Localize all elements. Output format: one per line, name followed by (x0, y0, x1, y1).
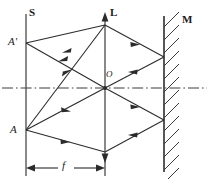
label-focal-length-f: f (62, 160, 65, 171)
label-optical-center-O: O (106, 70, 113, 79)
dimension-arrow-left-icon (26, 165, 35, 172)
arrow-right-mid-icon (61, 107, 71, 112)
ray-lens-top-to-mirror-lower (105, 25, 164, 57)
optical-center-node (103, 86, 107, 90)
label-lens-L: L (110, 7, 117, 18)
label-image-point-A-prime: A' (8, 36, 17, 47)
focal-length-dimension (26, 165, 105, 172)
label-object-point-A: A (10, 124, 17, 135)
arrow-left-mid-icon (58, 56, 68, 62)
ray-A-to-optical-center (26, 88, 105, 130)
ray-center-to-Aprime (26, 43, 105, 88)
diagram-canvas (0, 0, 209, 189)
mirror-line-M (164, 12, 179, 179)
optical-ray-diagram: S L M A' A O f (0, 0, 209, 189)
label-screen-S: S (29, 7, 35, 18)
lens-bottom-arrow-icon (102, 154, 109, 164)
ray-direction-arrows (58, 42, 140, 144)
arrow-right-lower-to-mirror-icon (130, 104, 140, 109)
mirror-hatching (164, 12, 179, 179)
arrow-left-upper-icon (62, 48, 72, 53)
label-mirror-M: M (182, 14, 192, 25)
arrow-right-lower-icon (60, 139, 70, 144)
dimension-arrow-right-icon (96, 165, 105, 172)
ray-center-to-mirror-lower (105, 88, 164, 120)
lens-top-arrow-icon (102, 12, 109, 22)
